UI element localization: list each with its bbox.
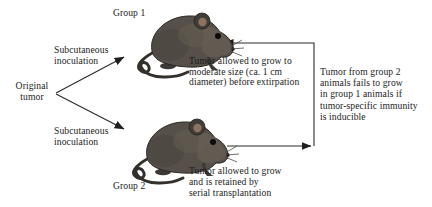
inoculation-bottom-label: Subcutaneous inoculation	[54, 126, 109, 147]
arrow-inoculation-group2	[56, 94, 124, 129]
group2-label: Group 2	[113, 181, 145, 192]
transfer-note: Tumor from group 2 animals fails to grow…	[320, 66, 418, 122]
group2-note: Tumor allowed to grow and is retained by…	[189, 165, 282, 198]
group1-label: Group 1	[113, 8, 145, 19]
group1-note: Tumor allowed to grow to moderate size (…	[189, 56, 299, 88]
original-tumor-label: Original tumor	[8, 81, 56, 102]
inoculation-top-label: Subcutaneous inoculation	[54, 45, 109, 66]
experiment-diagram: Group 1 Subcutaneous inoculation Origina…	[0, 0, 432, 207]
